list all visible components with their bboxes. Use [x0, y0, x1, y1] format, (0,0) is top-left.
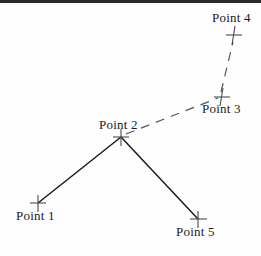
edge-point2-point5	[121, 137, 198, 219]
diagram-canvas: Point 1 Point 2 Point 3 Point 4 Point 5	[0, 0, 261, 256]
label-point-3: Point 3	[202, 101, 241, 117]
edge-point3-point4	[221, 42, 233, 92]
marker-point-4[interactable]	[226, 26, 242, 45]
label-point-2: Point 2	[99, 117, 138, 133]
label-point-5: Point 5	[176, 224, 215, 240]
label-point-1: Point 1	[16, 208, 55, 224]
edge-point1-point2	[38, 137, 121, 203]
label-point-4: Point 4	[212, 10, 251, 26]
